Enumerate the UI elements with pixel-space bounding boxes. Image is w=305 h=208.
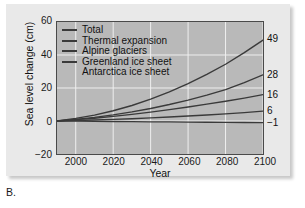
y-axis-tick-label: −20 bbox=[22, 150, 52, 160]
y-axis-tick-label: 40 bbox=[22, 50, 52, 60]
chart-card: Sea level change (cm) 6040200−20 TotalTh… bbox=[6, 4, 290, 176]
legend-line-swatch bbox=[62, 50, 77, 52]
y-axis-tick-label: 60 bbox=[22, 16, 52, 26]
series-end-value: −1 bbox=[267, 118, 278, 128]
series-end-value-labels: 4928166−1 bbox=[267, 4, 297, 176]
legend-label: Total bbox=[82, 25, 103, 36]
legend-item: Total bbox=[62, 25, 172, 36]
legend-item: Antarctica ice sheet bbox=[62, 67, 172, 78]
x-axis-tick-label: 2040 bbox=[140, 156, 162, 167]
legend-line-swatch bbox=[62, 29, 77, 31]
x-axis-tick-label: 2060 bbox=[178, 156, 200, 167]
series-end-value: 49 bbox=[267, 34, 278, 44]
legend-line-swatch bbox=[62, 40, 77, 42]
series-end-value: 16 bbox=[267, 90, 278, 100]
legend-line-swatch bbox=[62, 61, 77, 63]
y-axis-tick-labels: 6040200−20 bbox=[22, 4, 52, 176]
x-axis-tick-label: 2080 bbox=[216, 156, 238, 167]
series-end-value: 28 bbox=[267, 70, 278, 80]
x-axis-tick-label: 2000 bbox=[65, 156, 87, 167]
legend-label: Antarctica ice sheet bbox=[82, 67, 169, 78]
figure-container: Sea level change (cm) 6040200−20 TotalTh… bbox=[0, 0, 305, 208]
legend-line-swatch bbox=[62, 72, 77, 74]
y-axis-tick-label: 0 bbox=[22, 117, 52, 127]
chart-legend: TotalThermal expansionAlpine glaciersGre… bbox=[62, 25, 172, 78]
x-axis-tick-label: 2020 bbox=[103, 156, 125, 167]
figure-caption: B. bbox=[6, 186, 16, 198]
y-axis-tick-label: 20 bbox=[22, 83, 52, 93]
series-end-value: 6 bbox=[267, 106, 273, 116]
x-axis-title: Year bbox=[56, 167, 264, 179]
